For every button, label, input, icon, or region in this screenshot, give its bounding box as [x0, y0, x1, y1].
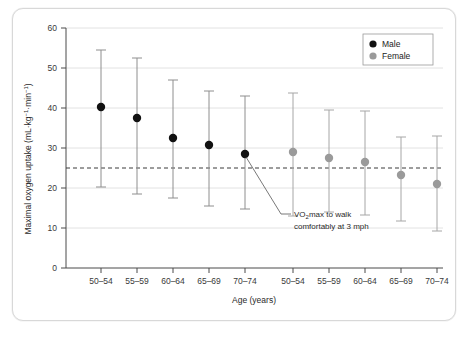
datapoint-female-50-54: [289, 148, 297, 156]
errorbar-female-50-54: [288, 93, 298, 216]
x-tick-label-4: 70–74: [233, 276, 257, 286]
errorbar-male-60-64: [168, 80, 178, 198]
datapoint-female-60-64: [361, 158, 369, 166]
y-tick-label-10: 10: [48, 223, 58, 233]
errorbar-male-55-59: [132, 58, 142, 194]
datapoint-male-50-54: [97, 103, 105, 111]
annotation-prefix: VO: [294, 210, 306, 219]
x-tick-label-3: 65–69: [197, 276, 221, 286]
annotation-line-2: comfortably at 3 mph: [294, 222, 369, 231]
figure-panel: Maximal oxygen uptake (mL·kg−1·min−1) 60…: [12, 8, 456, 321]
errorbar-female-65-69: [396, 137, 406, 221]
y-axis-title-part3: min: [23, 93, 33, 107]
datapoint-male-55-59: [133, 114, 141, 122]
legend-label-male: Male: [382, 39, 401, 49]
y-axis-title-part1: Maximal oxygen uptake (mL: [23, 128, 33, 235]
annotation-leader-line: [246, 157, 291, 214]
annotation-suffix: max to walk: [309, 210, 352, 219]
legend-marker-female: [369, 52, 376, 59]
x-axis: 50–54 55–59 60–64 65–69 70–74 50–54 55–5…: [66, 268, 449, 305]
datapoint-female-70-74: [433, 180, 441, 188]
y-tick-label-60: 60: [48, 23, 58, 33]
errorbar-male-70-74: [240, 96, 250, 209]
errorbar-male-50-54: [96, 50, 106, 187]
x-tick-label-7: 60–64: [353, 276, 377, 286]
errorbar-female-60-64: [360, 111, 370, 215]
y-tick-label-0: 0: [52, 263, 57, 273]
annotation-line-1: VO2max to walk: [294, 210, 352, 220]
x-axis-title: Age (years): [232, 295, 276, 305]
y-axis-title: Maximal oxygen uptake (mL·kg−1·min−1): [23, 83, 33, 234]
chart-legend: Male Female: [363, 34, 433, 65]
y-axis-title-part2: kg: [23, 116, 33, 125]
datapoint-male-70-74: [241, 150, 249, 158]
x-tick-label-2: 60–64: [161, 276, 185, 286]
y-tick-label-30: 30: [48, 143, 58, 153]
legend-label-female: Female: [382, 51, 411, 61]
datapoint-female-65-69: [397, 171, 405, 179]
datapoint-male-60-64: [169, 134, 177, 142]
errorbar-female-70-74: [432, 136, 442, 231]
y-tick-label-20: 20: [48, 183, 58, 193]
x-tick-label-8: 65–69: [389, 276, 413, 286]
x-tick-label-6: 55–59: [317, 276, 341, 286]
x-tick-label-0: 50–54: [89, 276, 113, 286]
y-axis-title-part4: ): [23, 83, 33, 86]
vo2max-scatter-chart: Maximal oxygen uptake (mL·kg−1·min−1) 60…: [13, 9, 457, 322]
legend-marker-male: [369, 40, 376, 47]
errorbar-female-55-59: [324, 110, 334, 212]
x-tick-label-1: 55–59: [125, 276, 149, 286]
svg-text:Maximal oxygen uptake (mL·kg−1: Maximal oxygen uptake (mL·kg−1·min−1): [23, 83, 33, 234]
y-axis: 60 50 40 30 20 10 0: [48, 23, 66, 273]
x-tick-label-5: 50–54: [281, 276, 305, 286]
datapoint-male-65-69: [205, 141, 213, 149]
x-tick-label-9: 70–74: [425, 276, 449, 286]
series-male: [96, 50, 250, 209]
y-tick-label-50: 50: [48, 63, 58, 73]
datapoint-female-55-59: [325, 154, 333, 162]
y-tick-label-40: 40: [48, 103, 58, 113]
